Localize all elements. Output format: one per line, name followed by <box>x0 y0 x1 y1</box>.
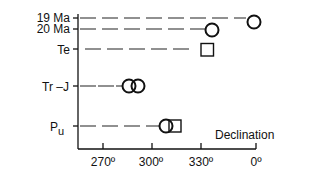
x-ticks <box>103 143 256 149</box>
y-ticks <box>73 18 78 126</box>
row-label-pu: Pu <box>50 120 64 137</box>
x-axis-title: Declination <box>215 128 274 142</box>
data-markers <box>123 16 261 133</box>
marker-20ma-circle <box>206 24 219 37</box>
marker-te-square <box>201 44 214 57</box>
x-tick-label-300: 300º <box>139 155 164 169</box>
x-tick-label-0: 0º <box>250 155 262 169</box>
marker-19ma-circle <box>248 16 261 29</box>
row-label-tr-j: Tr –J <box>42 80 69 94</box>
row-label-20ma: 20 Ma <box>37 22 71 36</box>
marker-pu-circle <box>160 120 173 133</box>
declination-chart: 19 Ma 20 Ma Te Tr –J Pu 270º 300º 330º 0… <box>0 0 311 177</box>
marker-trj-circle-2 <box>132 80 145 93</box>
row-label-te: Te <box>57 43 70 57</box>
guide-lines <box>80 18 246 126</box>
x-tick-label-330: 330º <box>189 155 214 169</box>
x-tick-label-270: 270º <box>91 155 116 169</box>
